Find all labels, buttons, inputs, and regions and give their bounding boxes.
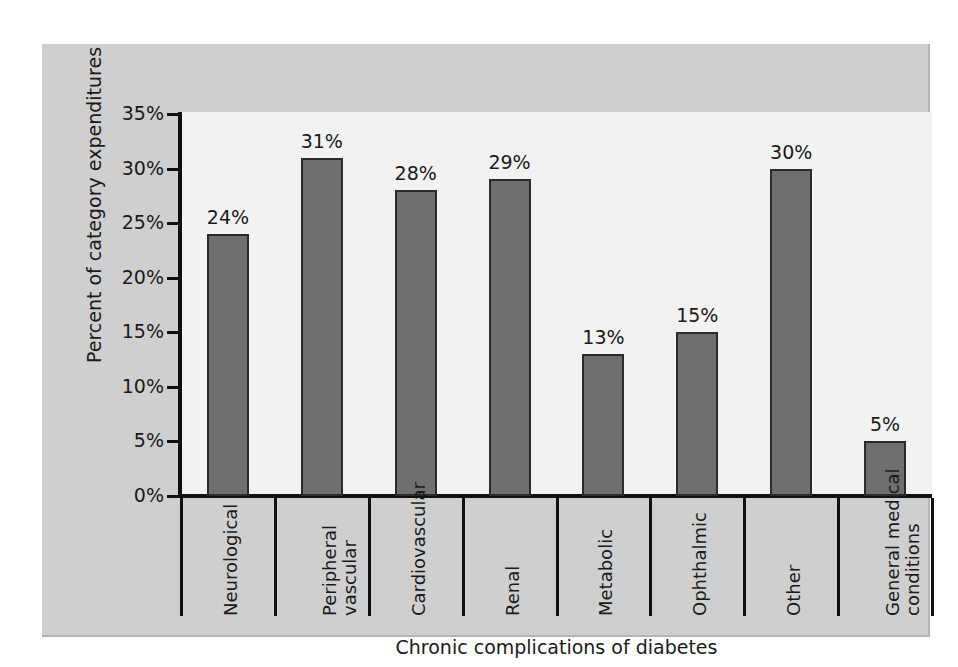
category-separator [180, 498, 183, 616]
bar-value-label: 5% [835, 413, 935, 435]
bar-renal [489, 179, 531, 496]
category-separator [649, 498, 652, 616]
category-label-other: Other [784, 565, 804, 616]
bar-peripheral-vascular [301, 158, 343, 496]
category-label-ophthalmic: Ophthalmic [690, 512, 710, 616]
category-separator [931, 498, 934, 616]
bar-value-label: 13% [553, 326, 653, 348]
y-axis-tick [167, 440, 179, 443]
category-separator [368, 498, 371, 616]
y-axis-tick [167, 113, 179, 116]
y-axis-tick [167, 277, 179, 280]
bar-metabolic [582, 354, 624, 496]
bar-value-label: 29% [460, 151, 560, 173]
bar-value-label: 28% [366, 162, 466, 184]
chart-figure-panel: 0%5%10%15%20%25%30%35% Percent of catego… [42, 44, 930, 637]
category-label-line: Ophthalmic [690, 512, 710, 616]
y-axis-tick-label: 5% [80, 429, 164, 451]
category-separator [462, 498, 465, 616]
category-separator [556, 498, 559, 616]
category-separator [837, 498, 840, 616]
bar-value-label: 24% [178, 206, 278, 228]
category-label-line: Metabolic [596, 529, 616, 616]
bar-neurological [207, 234, 249, 496]
category-label-line: Renal [503, 566, 523, 616]
y-axis-tick [167, 495, 179, 498]
category-label-metabolic: Metabolic [596, 529, 616, 616]
y-axis-tick [167, 331, 179, 334]
category-label-line: Cardiovascular [409, 482, 429, 616]
category-label-neurological: Neurological [221, 504, 241, 616]
category-label-line: General medical [883, 468, 903, 616]
y-axis-tick-label: 10% [80, 375, 164, 397]
y-axis-tick-label: 0% [80, 484, 164, 506]
x-axis-title: Chronic complications of diabetes [181, 636, 932, 658]
category-separator [743, 498, 746, 616]
bar-cardiovascular [395, 190, 437, 496]
category-label-line: Neurological [221, 504, 241, 616]
category-label-general-medical-conditions: General medicalconditions [883, 468, 923, 616]
category-separator [274, 498, 277, 616]
category-label-line: Peripheral [320, 525, 340, 616]
bar-value-label: 15% [647, 304, 747, 326]
y-axis-title: Percent of category expenditures [83, 45, 105, 365]
category-label-peripheral-vascular: Peripheralvascular [320, 525, 360, 616]
bar-value-label: 31% [272, 130, 372, 152]
category-label-renal: Renal [503, 566, 523, 616]
bar-other [770, 169, 812, 496]
category-label-line: conditions [903, 468, 923, 616]
category-label-line: Other [784, 565, 804, 616]
y-axis-tick [167, 386, 179, 389]
category-label-line: vascular [340, 525, 360, 616]
category-label-cardiovascular: Cardiovascular [409, 482, 429, 616]
y-axis-tick [167, 168, 179, 171]
bar-value-label: 30% [741, 141, 841, 163]
bar-ophthalmic [676, 332, 718, 496]
